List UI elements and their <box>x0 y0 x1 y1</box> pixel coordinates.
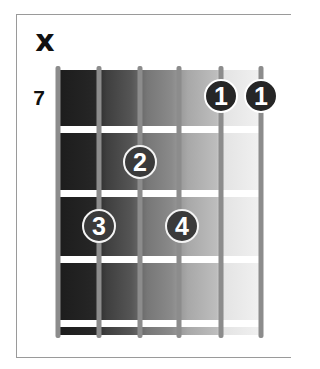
starting-fret-label: 7 <box>31 86 47 110</box>
fret-line-3 <box>58 256 261 263</box>
finger-dot: 3 <box>82 209 116 243</box>
finger-dot: 1 <box>244 79 278 113</box>
finger-dot: 4 <box>165 209 199 243</box>
string-3 <box>138 66 143 338</box>
finger-dot: 2 <box>123 145 157 179</box>
string-1 <box>56 66 61 338</box>
fret-line-4 <box>58 320 261 327</box>
string-4 <box>177 66 182 338</box>
string-2 <box>97 66 102 338</box>
fret-line-1 <box>58 126 261 133</box>
finger-dot: 1 <box>204 79 238 113</box>
muted-string-marker: x <box>34 30 56 52</box>
fret-line-2 <box>58 190 261 197</box>
